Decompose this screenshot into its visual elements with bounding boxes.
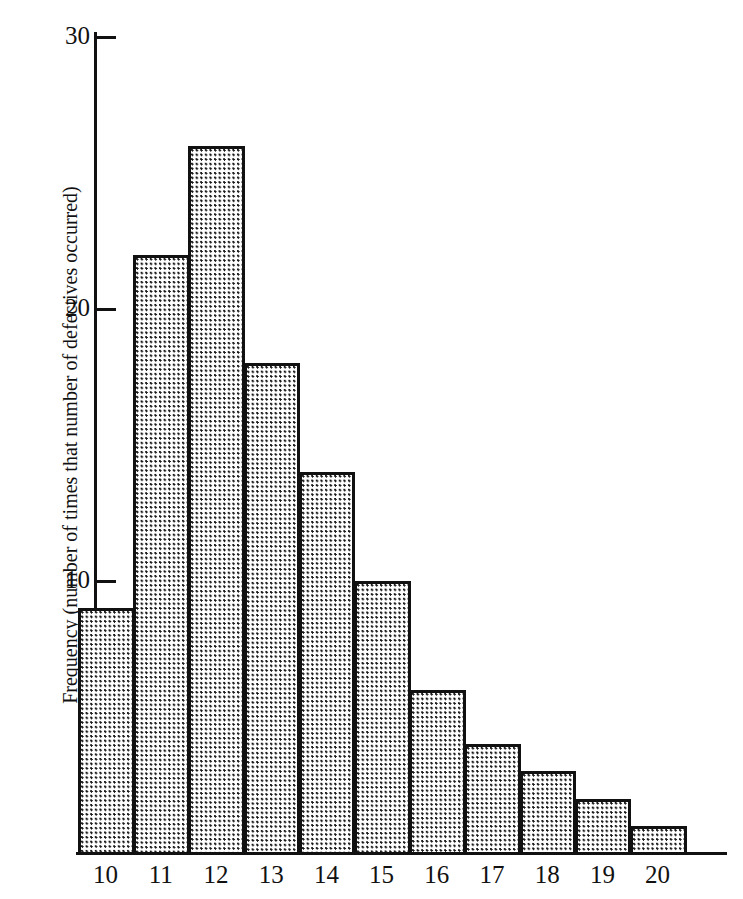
histogram-bar-14 — [299, 472, 356, 855]
histogram-figure: Frequency (number of times that number o… — [0, 0, 743, 899]
bar-group — [0, 0, 743, 899]
histogram-bar-13 — [244, 363, 301, 855]
histogram-bar-17 — [464, 744, 521, 855]
x-axis-tick-label-20: 20 — [620, 862, 695, 887]
plot-area: Frequency (number of times that number o… — [0, 0, 743, 899]
histogram-bar-20 — [630, 826, 687, 855]
histogram-bar-16 — [409, 690, 466, 855]
histogram-bar-12 — [188, 146, 245, 855]
histogram-bar-18 — [520, 771, 577, 855]
histogram-bar-19 — [575, 799, 632, 855]
histogram-bar-11 — [133, 255, 190, 855]
histogram-bar-15 — [354, 581, 411, 855]
histogram-bar-10 — [78, 608, 135, 855]
